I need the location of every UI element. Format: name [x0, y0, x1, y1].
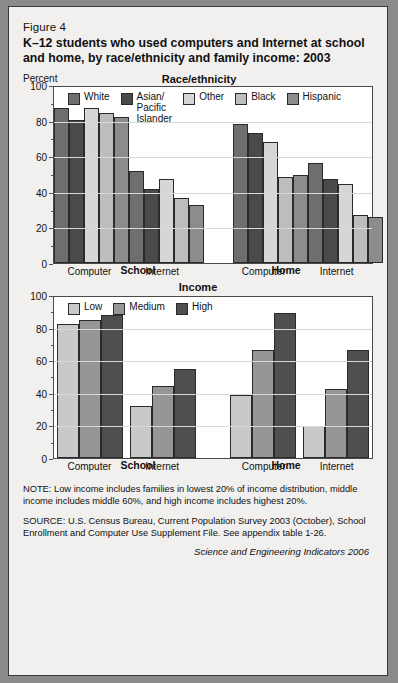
bar — [293, 175, 308, 263]
y-tick-label: 60 — [36, 356, 47, 367]
figure-number: Figure 4 — [23, 21, 375, 33]
y-tick-label: 20 — [36, 223, 47, 234]
legend-swatch — [183, 93, 195, 105]
bar — [144, 189, 159, 263]
chart-1-legend: WhiteAsian/ Pacific IslanderOtherBlackHi… — [68, 92, 362, 124]
bar — [159, 179, 174, 263]
figure-notes: NOTE: Low income includes families in lo… — [23, 483, 373, 539]
legend-label: High — [192, 302, 213, 313]
bar — [347, 350, 369, 458]
legend-swatch — [235, 93, 247, 105]
note-text: NOTE: Low income includes families in lo… — [23, 483, 373, 508]
chart-1-heading: Race/ethnicity — [23, 73, 375, 85]
gridline — [54, 361, 372, 362]
legend-label: Low — [84, 302, 102, 313]
bar — [114, 117, 129, 263]
group-label: School — [120, 264, 155, 276]
y-tick-label: 80 — [36, 116, 47, 127]
bar — [189, 205, 204, 263]
bar — [99, 113, 114, 263]
percent-axis-label-row: Percent Race/ethnicity — [23, 73, 375, 86]
legend-item: Low — [68, 302, 102, 315]
legend-swatch — [68, 93, 80, 105]
race-ethnicity-chart: 020406080100 WhiteAsian/ Pacific Islande… — [23, 86, 375, 264]
bar — [54, 108, 69, 263]
chart-2-bars — [54, 297, 372, 458]
gridline — [54, 193, 372, 194]
bar — [57, 324, 79, 458]
source-text: SOURCE: U.S. Census Bureau, Current Popu… — [23, 515, 373, 540]
bar — [130, 406, 152, 458]
legend-swatch — [176, 303, 188, 315]
legend-item: Medium — [113, 302, 165, 315]
legend-item: Black — [235, 92, 275, 105]
y-tick-label: 60 — [36, 152, 47, 163]
group-label: Home — [271, 264, 300, 276]
chart-2-y-axis: 020406080100 — [23, 296, 53, 459]
chart-2-heading: Income — [21, 281, 375, 293]
bar — [353, 215, 368, 263]
legend-item: Other — [183, 92, 224, 105]
bar — [129, 171, 144, 263]
y-tick-label: 80 — [36, 323, 47, 334]
legend-label: White — [84, 92, 110, 103]
legend-swatch — [68, 303, 80, 315]
bar — [338, 184, 353, 263]
bar-group — [54, 297, 126, 458]
gridline — [54, 394, 372, 395]
bar — [325, 389, 347, 458]
y-tick-label: 40 — [36, 187, 47, 198]
bar-group — [227, 297, 299, 458]
bar — [101, 315, 123, 458]
legend-label: Medium — [129, 302, 165, 313]
bar — [174, 369, 196, 458]
group-label: Home — [271, 459, 300, 471]
bar-group — [300, 297, 372, 458]
legend-item: Hispanic — [287, 92, 341, 105]
bar — [84, 108, 99, 263]
chart-1-group-labels: SchoolHome — [51, 264, 373, 279]
gridline — [54, 228, 372, 229]
bar-group — [126, 297, 198, 458]
bar — [278, 177, 293, 263]
legend-label: Asian/ Pacific Islander — [137, 92, 173, 124]
legend-label: Other — [199, 92, 224, 103]
income-chart: 020406080100 LowMediumHigh ComputerInter… — [23, 296, 375, 459]
legend-item: White — [68, 92, 110, 105]
chart-1-y-axis: 020406080100 — [23, 86, 53, 264]
bar — [368, 217, 383, 263]
bar — [152, 386, 174, 458]
legend-item: Asian/ Pacific Islander — [121, 92, 173, 124]
bar — [308, 163, 323, 263]
credit-line: Science and Engineering Indicators 2006 — [21, 546, 369, 557]
gridline — [54, 157, 372, 158]
legend-label: Black — [251, 92, 275, 103]
bar — [274, 313, 296, 458]
legend-item: High — [176, 302, 213, 315]
y-tick-label: 100 — [30, 80, 47, 91]
chart-2-legend: LowMediumHigh — [68, 302, 362, 315]
bar — [303, 426, 325, 458]
legend-swatch — [287, 93, 299, 105]
chart-1-plot-area: WhiteAsian/ Pacific IslanderOtherBlackHi… — [53, 86, 373, 264]
bar — [323, 179, 338, 263]
chart-2-plot-area: LowMediumHigh — [53, 296, 373, 459]
group-label: School — [120, 459, 155, 471]
bar — [263, 142, 278, 263]
gridline — [54, 329, 372, 330]
gridline — [54, 426, 372, 427]
figure-title: K–12 students who used computers and Int… — [23, 36, 375, 67]
y-tick-label: 0 — [41, 453, 47, 464]
y-tick-label: 0 — [41, 258, 47, 269]
y-tick-label: 20 — [36, 421, 47, 432]
bar — [252, 350, 274, 458]
bar — [248, 133, 263, 263]
chart-2-group-labels: SchoolHome — [51, 459, 373, 474]
legend-swatch — [113, 303, 125, 315]
bar — [174, 198, 189, 263]
legend-swatch — [121, 93, 133, 105]
y-tick-label: 40 — [36, 388, 47, 399]
figure-panel: Figure 4 K–12 students who used computer… — [8, 6, 388, 676]
y-tick-label: 100 — [30, 290, 47, 301]
legend-label: Hispanic — [303, 92, 341, 103]
